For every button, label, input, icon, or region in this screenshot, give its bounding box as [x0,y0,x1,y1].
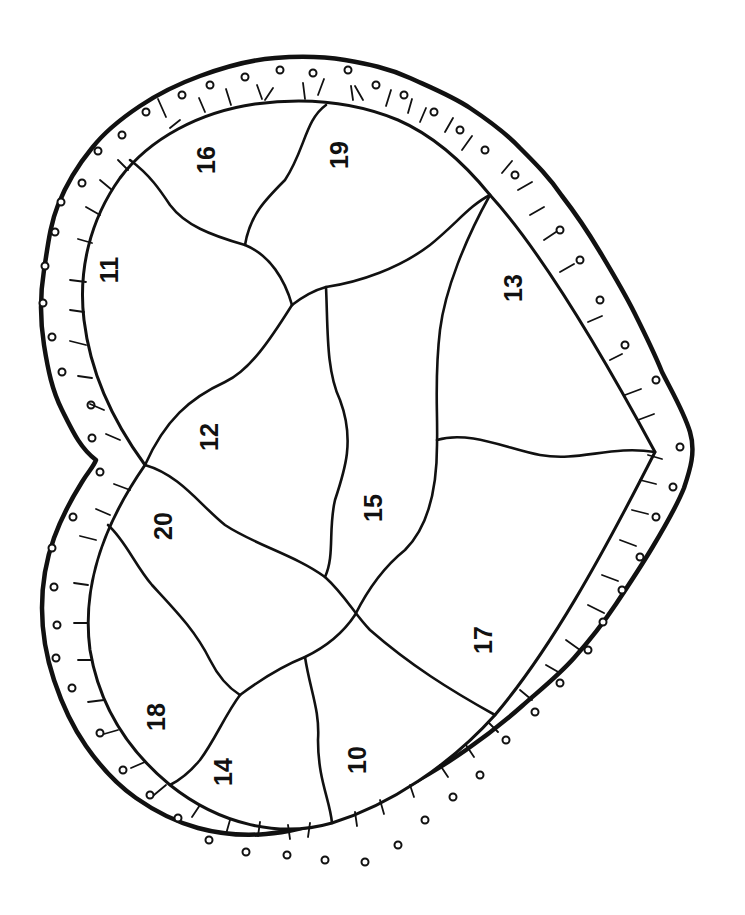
region-label-19: 19 [325,141,353,169]
region-label-18: 18 [142,703,170,731]
region-label-20: 20 [149,512,177,540]
region-label-10: 10 [343,746,371,774]
region-label-14: 14 [209,758,237,786]
region-label-12: 12 [195,423,223,451]
region-label-16: 16 [192,146,220,174]
region-label-15: 15 [359,494,387,522]
region-label-17: 17 [469,626,497,654]
region-label-13: 13 [499,274,527,302]
coloring-page: 10 11 12 13 14 15 16 17 18 19 20 [0,0,745,915]
region-label-11: 11 [95,257,123,284]
